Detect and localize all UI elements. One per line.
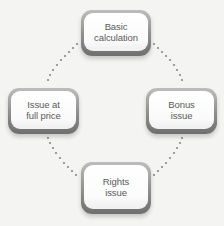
node-rights-issue: Rights issue xyxy=(81,162,151,214)
node-basic-calculation: Basic calculation xyxy=(81,10,151,56)
connector-right-to-bottom xyxy=(153,137,183,176)
node-box: Issue at full price xyxy=(11,91,76,129)
node-bonus-issue: Bonus issue xyxy=(146,88,217,134)
connector-bottom-to-left xyxy=(47,137,77,176)
node-box: Bonus issue xyxy=(149,91,214,129)
node-box: Rights issue xyxy=(84,165,148,209)
node-issue-at-full-price: Issue at full price xyxy=(8,88,79,134)
node-label: Basic calculation xyxy=(94,21,138,43)
cycle-diagram: Basic calculation Bonus issue Rights iss… xyxy=(0,0,224,226)
node-label: Rights issue xyxy=(103,176,129,198)
connector-top-to-right xyxy=(153,43,183,81)
node-label: Bonus issue xyxy=(168,99,194,121)
connector-left-to-top xyxy=(47,43,78,81)
node-box: Basic calculation xyxy=(84,13,148,51)
node-label: Issue at full price xyxy=(26,99,60,121)
